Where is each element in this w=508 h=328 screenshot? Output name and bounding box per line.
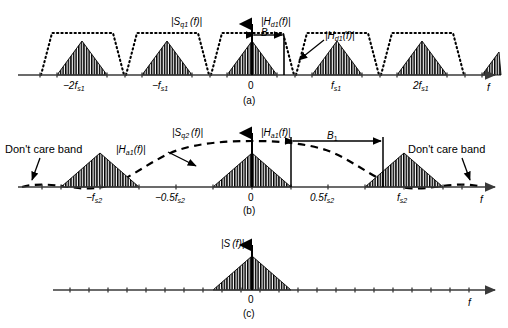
tick-label-a-1: −fs1 — [152, 81, 168, 91]
dont-care-band-left: Don't care band — [5, 144, 82, 155]
spectrum-image — [312, 41, 362, 75]
callout-arrow-dontcare-left — [32, 158, 40, 180]
signal-label-s: |S (f)| — [221, 239, 244, 249]
spectrum-image — [57, 41, 107, 75]
tick-label-a-4: 2fs1 — [413, 81, 429, 91]
panel-a — [18, 24, 501, 78]
tick-label-a-2: 0 — [248, 81, 254, 91]
figure-spectra-diagram — [0, 0, 508, 328]
axis-label-b: f — [480, 195, 483, 205]
panel-caption-b: (b) — [243, 206, 255, 216]
panel-caption-a: (a) — [243, 96, 255, 106]
callout-arrow-dontcare-right — [462, 158, 470, 180]
tick-label-a-3: fs1 — [331, 81, 341, 91]
spectrum-image — [397, 41, 447, 75]
tick-label-b-1: −0.5fs2 — [155, 193, 185, 203]
filter-label-ha1: |Ha1(f)| — [261, 128, 291, 138]
spectrum-image — [142, 41, 192, 75]
filter-label-hd1: |Hd1(f)| — [261, 17, 291, 27]
dont-care-band-right: Don't care band — [408, 144, 485, 155]
spectrum-image — [365, 153, 443, 187]
filter-label-hd1-callout: |Hd1(f)| — [325, 31, 355, 41]
tick-label-c-0: 0 — [248, 295, 254, 305]
spectra-images-sq1 — [57, 41, 501, 75]
tick-label-a-0: −2fs1 — [63, 81, 85, 91]
filter-label-ha1-callout: |Ha1(f)| — [116, 145, 146, 155]
signal-label-sq1: |Sq1 (f)| — [171, 17, 202, 27]
callout-arrow-ha1 — [168, 152, 196, 166]
tick-label-b-0: −fs2 — [86, 193, 102, 203]
spectrum-image — [61, 153, 139, 187]
tick-label-b-4: fs2 — [397, 193, 407, 203]
axis-label-c: f — [468, 298, 471, 308]
tick-label-b-2: 0 — [248, 193, 254, 203]
axis-label-a: f — [487, 83, 490, 93]
panel-b — [18, 133, 495, 190]
bandwidth-label-b1: B1 — [327, 131, 338, 141]
tick-label-b-3: 0.5fs2 — [310, 193, 334, 203]
spectrum-image-partial — [482, 52, 501, 75]
signal-label-sq2: |Sq2 (f)| — [172, 128, 203, 138]
bandwidth-label-b: B — [261, 28, 268, 38]
panel-caption-c: (c) — [243, 309, 255, 319]
panel-c — [53, 245, 495, 293]
